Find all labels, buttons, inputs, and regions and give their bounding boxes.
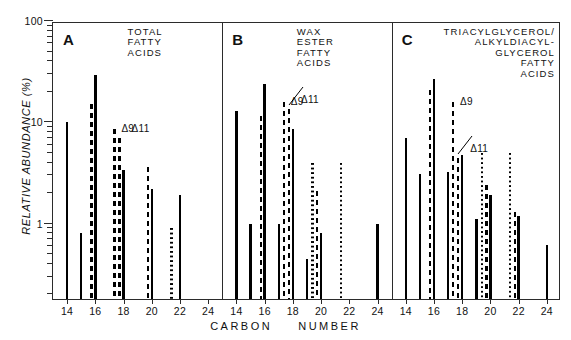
plot-frame: 100101ATOTAL FATTY ACIDS141618202224Δ9Δ1…	[52, 22, 560, 300]
y-axis-tick-label: 1	[37, 218, 43, 230]
bar-c20-solid	[320, 233, 322, 299]
bar-c14-solid	[405, 138, 407, 299]
bar-c17.72-dashed	[457, 158, 459, 299]
panel-divider	[392, 23, 393, 299]
x-axis-tick-label: 22	[343, 305, 355, 317]
x-axis-tick-label: 16	[428, 305, 440, 317]
y-axis-minor-tick	[47, 263, 53, 264]
x-axis-tick	[293, 299, 294, 304]
x-axis-tick	[95, 299, 96, 304]
bar-c15-solid	[419, 174, 421, 299]
panel-letter-b: B	[232, 31, 243, 48]
x-axis-tick-label: 22	[174, 305, 186, 317]
bar-c18-solid	[122, 170, 124, 299]
bar-c17.35-dashed	[113, 129, 115, 299]
y-axis-tick-label: 100	[25, 15, 43, 27]
bar-c17.35-dashed	[283, 102, 285, 299]
y-axis-major-tick	[44, 121, 53, 122]
y-axis-label: RELATIVE ABUNDANCE (%)	[20, 46, 32, 266]
y-axis-minor-tick	[47, 91, 53, 92]
bar-c19.4-dotted	[481, 153, 483, 299]
panel-letter-a: A	[63, 31, 74, 48]
x-axis-tick-label: 14	[400, 305, 412, 317]
x-axis-tick-label: 20	[484, 305, 496, 317]
x-axis-tick	[124, 299, 125, 304]
y-axis-minor-tick	[47, 192, 53, 193]
x-axis-tick-label: 24	[541, 305, 553, 317]
y-axis-major-tick	[44, 223, 53, 224]
y-axis-minor-tick	[47, 238, 53, 239]
x-axis-tick	[67, 299, 68, 304]
x-axis-tick-label: 20	[315, 305, 327, 317]
y-axis-minor-tick	[47, 73, 53, 74]
panel-divider	[222, 23, 223, 299]
y-axis-minor-tick	[47, 51, 53, 52]
x-axis-tick-label: 18	[456, 305, 468, 317]
x-axis-tick	[152, 299, 153, 304]
x-axis-tick	[180, 299, 181, 304]
bar-c22-solid	[517, 216, 519, 299]
bar-c21.4-dotted	[340, 163, 342, 299]
x-axis-tick	[519, 299, 520, 304]
y-axis-minor-tick	[47, 144, 53, 145]
y-axis-minor-tick	[47, 276, 53, 277]
x-axis-tick-label: 18	[287, 305, 299, 317]
x-axis-tick	[406, 299, 407, 304]
x-axis-tick-label: 24	[371, 305, 383, 317]
x-axis-tick	[236, 299, 237, 304]
x-axis-tick	[208, 299, 209, 304]
bar-c19-solid	[306, 259, 308, 299]
bar-c17.35-dashed	[452, 102, 454, 299]
x-axis-tick	[349, 299, 350, 304]
bar-c16-solid	[433, 79, 435, 299]
bar-c21.4-dotted	[170, 228, 172, 299]
x-axis-tick	[378, 299, 379, 304]
panel-title-b: WAX ESTER FATTY ACIDS	[297, 27, 334, 69]
bar-c15.72-dashed	[90, 104, 92, 299]
figure-root: RELATIVE ABUNDANCE (%) CARBONNUMBER 1001…	[0, 0, 571, 340]
bar-c15-solid	[80, 233, 82, 299]
x-axis-tick-label: 24	[202, 305, 214, 317]
y-axis-minor-tick	[47, 253, 53, 254]
bar-c20-solid	[489, 195, 491, 299]
bar-c17.72-dashed	[288, 109, 290, 299]
x-axis-tick	[434, 299, 435, 304]
x-axis-tick-label: 22	[513, 305, 525, 317]
bar-c20-solid	[151, 189, 153, 299]
x-axis-label-left: CARBON	[210, 320, 272, 332]
bar-c14-solid	[66, 122, 68, 299]
annotation-delta11: Δ11	[132, 123, 150, 134]
y-axis-tick-label: 10	[31, 116, 43, 128]
y-axis-minor-tick	[47, 42, 53, 43]
y-axis-minor-tick	[47, 152, 53, 153]
y-axis-minor-tick	[47, 174, 53, 175]
y-axis-minor-tick	[47, 126, 53, 127]
bar-c24-solid	[376, 224, 378, 299]
y-axis-minor-tick	[47, 25, 53, 26]
y-axis-minor-tick	[47, 131, 53, 132]
annotation-leader-line	[289, 83, 315, 109]
y-axis-minor-tick	[47, 293, 53, 294]
panel-letter-c: C	[402, 31, 413, 48]
annotation-delta9: Δ9	[460, 96, 473, 107]
bar-c18-solid	[461, 155, 463, 299]
bar-c15.72-dashed	[429, 90, 431, 299]
x-axis-tick-label: 14	[61, 305, 73, 317]
bar-c16-solid	[94, 75, 96, 299]
y-axis-minor-tick	[47, 36, 53, 37]
bar-c22-solid	[179, 195, 181, 299]
bar-c21.4-dotted	[509, 153, 511, 299]
y-axis-minor-tick	[47, 245, 53, 246]
x-axis-tick-label: 14	[230, 305, 242, 317]
bar-c15-solid	[249, 224, 251, 299]
x-axis-tick	[490, 299, 491, 304]
x-axis-tick-label: 16	[259, 305, 271, 317]
bar-c18-solid	[292, 129, 294, 299]
x-axis-tick-label: 18	[117, 305, 129, 317]
bar-c17.72-dashed	[118, 138, 120, 299]
bar-c19.72-dashed	[147, 167, 149, 299]
x-axis-tick-label: 16	[89, 305, 101, 317]
x-axis-label: CARBONNUMBER	[0, 320, 571, 332]
y-axis-minor-tick	[47, 162, 53, 163]
x-axis-tick	[321, 299, 322, 304]
